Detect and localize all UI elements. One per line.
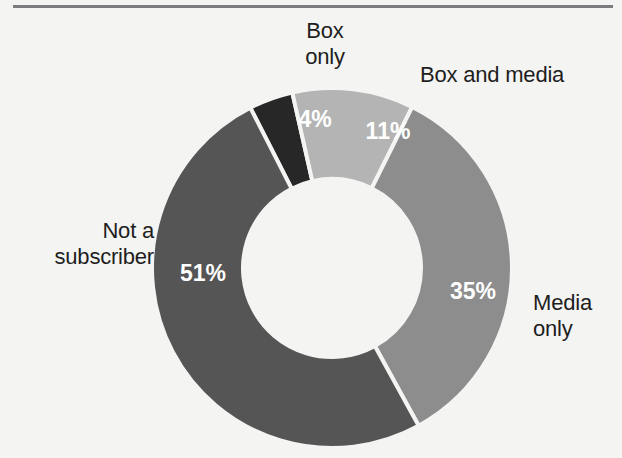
callout-label-box-only: Box only [240, 18, 410, 70]
callout-label-box-and-media: Box and media [420, 62, 620, 88]
donut-value-label-media-only: 35% [450, 278, 496, 304]
donut-value-label-box-only: 4% [298, 106, 331, 132]
donut-value-label-box-and-media: 11% [366, 118, 411, 144]
callout-label-media-only: Media only [533, 290, 622, 342]
donut-value-label-not-a-subscriber: 51% [180, 260, 226, 286]
donut-chart-figure: 4%11%35%51% Box only Box and media Media… [0, 0, 622, 458]
callout-label-not-a-subscriber: Not a subscriber [2, 218, 154, 270]
